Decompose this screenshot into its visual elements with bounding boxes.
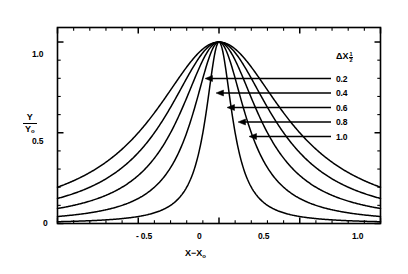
legend-item-label: 0.6	[336, 103, 347, 113]
figure-container: Y Yo X−Xo ΔX12 - 0.500.51.01.00.50 0.20.…	[0, 0, 408, 274]
legend-fraction-denominator: 2	[349, 58, 353, 63]
y-axis-label: Y Yo	[23, 113, 37, 134]
y-axis-label-subscript: o	[31, 128, 35, 134]
x-tick-label: - 0.5	[136, 231, 152, 241]
x-tick-label: 1.0	[352, 231, 363, 241]
legend-item-label: 1.0	[336, 132, 347, 142]
x-tick-label: 0.5	[258, 231, 269, 241]
y-axis-label-numerator: Y	[23, 113, 37, 124]
y-tick-label: 1.0	[32, 49, 43, 59]
legend-title: ΔX12	[336, 51, 353, 63]
legend-item-label: 0.8	[336, 117, 347, 127]
x-axis-label-subscript: o	[202, 253, 206, 259]
y-axis-label-denominator: Yo	[23, 124, 37, 134]
x-axis-label: X−Xo	[185, 248, 206, 259]
legend-title-symbol: ΔX	[336, 51, 348, 61]
x-axis-label-main: X−X	[185, 248, 202, 258]
y-tick-label: 0	[43, 218, 48, 228]
y-tick-label: 0.5	[32, 136, 43, 146]
legend-item-label: 0.2	[336, 74, 347, 84]
x-tick-label: 0	[197, 231, 202, 241]
legend-title-fraction: 12	[349, 52, 353, 63]
legend-item-label: 0.4	[336, 88, 347, 98]
